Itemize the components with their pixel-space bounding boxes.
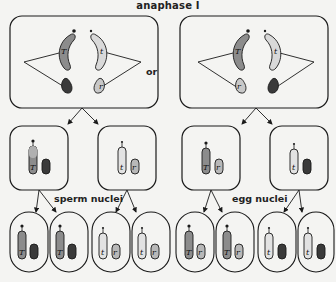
sperm-nucleus-1: T <box>10 212 48 272</box>
egg-nucleus-1: T r <box>176 212 214 272</box>
anaphase-cell-left: T t r <box>10 16 158 108</box>
division-arrows-2 <box>36 190 302 212</box>
allele-T: T <box>61 47 67 56</box>
sperm-nucleus-3: t r <box>92 212 130 272</box>
meiosis-diagram: T t r T t r <box>0 0 336 282</box>
svg-text:T: T <box>19 248 25 257</box>
anaphase-cell-right: T t r <box>180 16 328 108</box>
svg-text:T: T <box>203 163 209 172</box>
sperm-nucleus-4: t r <box>132 212 170 272</box>
egg-nucleus-2: T r <box>216 212 254 272</box>
secondary-cell-Tr: T r <box>182 126 240 190</box>
svg-text:T: T <box>224 248 230 257</box>
sperm-nucleus-2: T <box>50 212 88 272</box>
secondary-cell-tr: t r <box>98 126 156 190</box>
svg-text:T: T <box>186 248 192 257</box>
svg-text:T: T <box>57 248 63 257</box>
svg-text:T: T <box>235 47 241 56</box>
egg-nucleus-3: t <box>258 212 296 272</box>
svg-text:T: T <box>30 163 36 172</box>
division-arrows-1 <box>68 108 272 124</box>
secondary-cell-TR: T <box>10 126 68 190</box>
secondary-cell-tR: t <box>270 126 328 190</box>
egg-nucleus-4: t <box>298 212 334 272</box>
